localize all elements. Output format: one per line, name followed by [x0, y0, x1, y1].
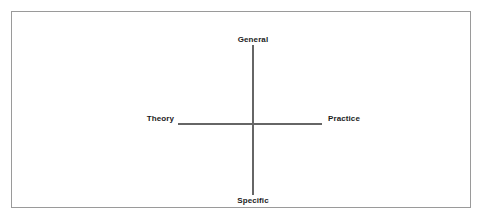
axis-label-theory: Theory [147, 114, 174, 124]
vertical-axis-line [252, 45, 254, 195]
axis-label-general: General [238, 35, 269, 45]
diagram-figure: General Specific Theory Practice [0, 0, 484, 224]
horizontal-axis-line [178, 123, 322, 125]
axis-label-practice: Practice [328, 114, 360, 124]
axis-label-specific: Specific [237, 196, 268, 206]
diagram-frame: General Specific Theory Practice [11, 11, 471, 208]
